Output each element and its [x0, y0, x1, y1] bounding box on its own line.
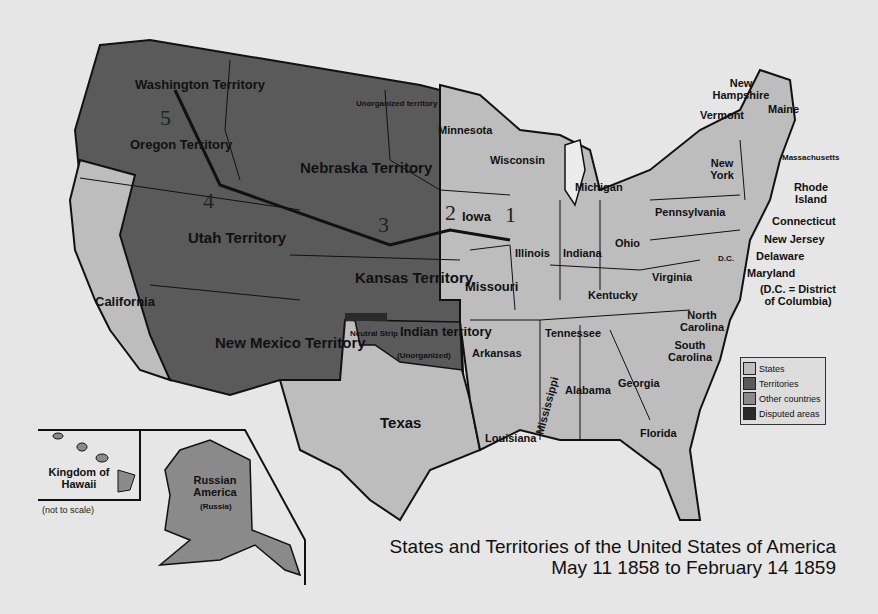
label-texas: Texas — [380, 415, 421, 431]
route-number-3: 3 — [378, 212, 389, 238]
label-georgia: Georgia — [618, 378, 660, 390]
label-connecticut: Connecticut — [772, 216, 836, 228]
label-neutral-strip: Neutral Strip — [350, 330, 398, 338]
label-indian: Indian territory — [400, 325, 492, 339]
label-utah: Utah Territory — [188, 230, 286, 246]
label-massachusetts: Massachusetts — [782, 154, 839, 162]
label-washington: Washington Territory — [135, 78, 265, 92]
label-wisconsin: Wisconsin — [490, 155, 545, 167]
label-kansas: Kansas Territory — [355, 270, 473, 286]
legend-states: States — [743, 361, 823, 376]
label-arkansas: Arkansas — [472, 348, 522, 360]
label-minnesota: Minnesota — [438, 125, 492, 137]
label-russian-america: Russian America — [190, 475, 240, 498]
label-indian-sub: (Unorganized) — [397, 352, 451, 360]
legend-other-countries: Other countries — [743, 391, 823, 406]
label-pennsylvania: Pennsylvania — [655, 207, 725, 219]
not-to-scale-note: (not to scale) — [42, 505, 94, 515]
label-russia: (Russia) — [200, 503, 232, 511]
map-legend: States Territories Other countries Dispu… — [740, 357, 826, 425]
route-number-2: 2 — [445, 200, 456, 226]
label-indiana: Indiana — [563, 248, 602, 260]
label-florida: Florida — [640, 428, 677, 440]
label-new-york: New York — [706, 158, 738, 181]
label-dc: D.C. — [718, 255, 734, 263]
label-hawaii: Kingdom of Hawaii — [44, 467, 114, 490]
label-unorganized: Unorganized territory — [356, 100, 437, 108]
label-south-carolina: South Carolina — [660, 340, 720, 363]
legend-swatch-states — [743, 362, 756, 375]
label-maine: Maine — [768, 104, 799, 116]
legend-swatch-other — [743, 392, 756, 405]
map-title: States and Territories of the United Sta… — [390, 537, 836, 579]
legend-disputed: Disputed areas — [743, 406, 823, 421]
label-vermont: Vermont — [700, 110, 744, 122]
label-missouri: Missouri — [465, 280, 518, 294]
label-new-mexico: New Mexico Territory — [215, 335, 366, 351]
label-illinois: Illinois — [515, 248, 550, 260]
label-virginia: Virginia — [652, 272, 692, 284]
label-nebraska: Nebraska Territory — [300, 160, 432, 176]
label-alabama: Alabama — [565, 385, 611, 397]
label-ohio: Ohio — [615, 238, 640, 250]
label-michigan: Michigan — [575, 182, 623, 194]
route-number-4: 4 — [203, 188, 214, 214]
legend-swatch-disputed — [743, 407, 756, 420]
label-new-hampshire: New Hampshire — [706, 78, 776, 101]
label-louisiana: Louisiana — [485, 433, 536, 445]
label-iowa: Iowa — [462, 210, 491, 224]
label-rhode-island: Rhode Island — [786, 182, 836, 205]
label-tennessee: Tennessee — [545, 328, 601, 340]
label-california: California — [95, 295, 155, 309]
label-kentucky: Kentucky — [588, 290, 638, 302]
legend-territories: Territories — [743, 376, 823, 391]
route-number-1: 1 — [505, 202, 516, 228]
legend-swatch-territories — [743, 377, 756, 390]
label-delaware: Delaware — [756, 251, 804, 263]
route-number-5: 5 — [160, 105, 171, 131]
label-new-jersey: New Jersey — [764, 234, 825, 246]
label-oregon: Oregon Territory — [130, 138, 232, 152]
label-maryland: Maryland — [747, 268, 795, 280]
dc-note: (D.C. = District of Columbia) — [758, 284, 838, 307]
title-line-2: May 11 1858 to February 14 1859 — [390, 558, 836, 579]
title-line-1: States and Territories of the United Sta… — [390, 537, 836, 558]
label-north-carolina: North Carolina — [672, 310, 732, 333]
